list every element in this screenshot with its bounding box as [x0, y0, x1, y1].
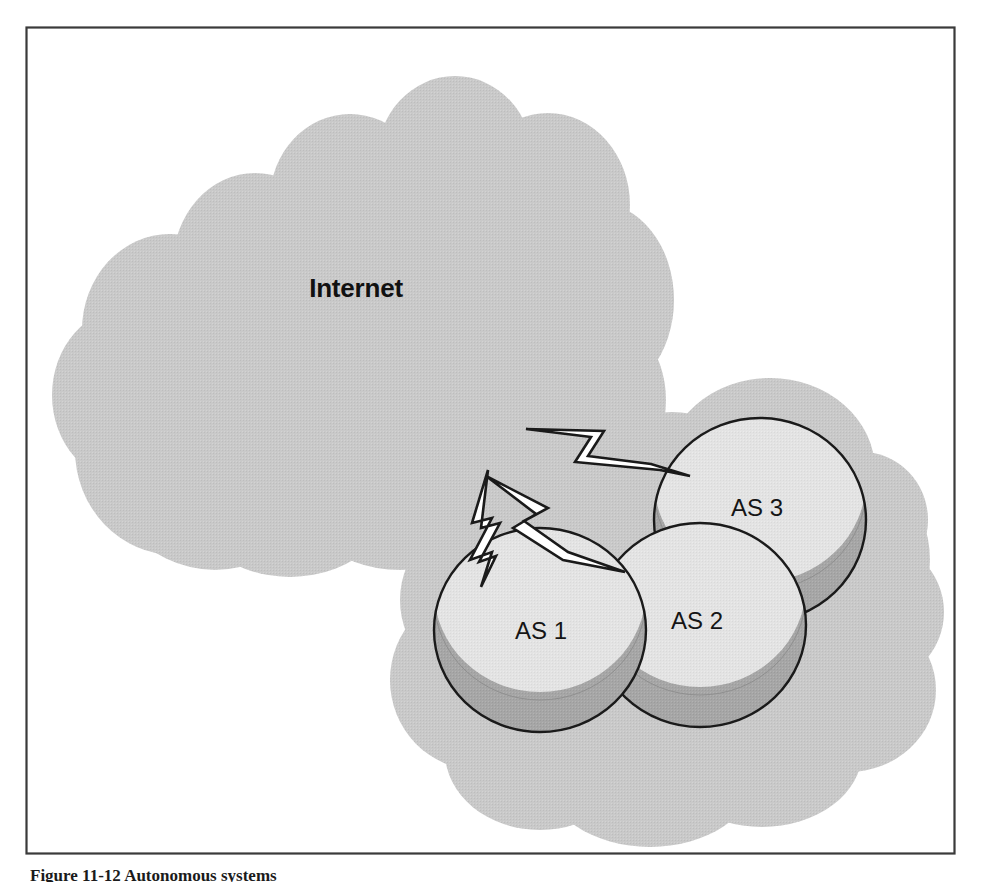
internet-label: Internet — [309, 273, 403, 303]
as-1[interactable]: AS 1 — [434, 528, 646, 732]
as-2-label: AS 2 — [671, 607, 723, 634]
network-diagram: Internet — [0, 0, 981, 882]
figure-caption: Figure 11-12 Autonomous systems — [30, 866, 277, 882]
as-3-label: AS 3 — [731, 494, 783, 521]
figure-container: Internet — [0, 0, 981, 882]
as-1-label: AS 1 — [515, 617, 567, 644]
